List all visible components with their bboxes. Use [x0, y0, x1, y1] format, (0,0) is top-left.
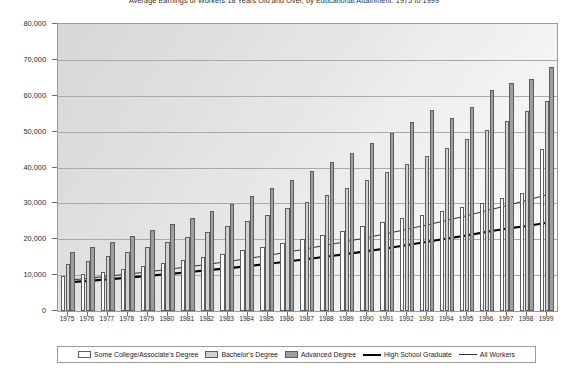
bar-some-college-associate-s-degree-1987: [300, 239, 304, 311]
bar-advanced-degree-1986: [290, 180, 294, 311]
legend-label: Some College/Associate's Degree: [94, 351, 198, 358]
bar-advanced-degree-1975: [70, 252, 74, 311]
legend-line-icon: [459, 354, 477, 355]
x-axis-tick: [67, 312, 68, 316]
bar-advanced-degree-1991: [390, 133, 394, 311]
x-axis-label: 1983: [219, 315, 234, 322]
bar-some-college-associate-s-degree-1990: [360, 226, 364, 311]
plot-inner: [58, 24, 557, 311]
bar-some-college-associate-s-degree-1985: [260, 247, 264, 311]
x-axis-label: 1990: [359, 315, 374, 322]
x-axis-tick: [486, 312, 487, 316]
bar-bachelor-s-degree-1979: [145, 247, 149, 311]
x-axis-tick: [326, 312, 327, 316]
x-axis-tick: [127, 312, 128, 316]
y-axis-tick: [52, 131, 57, 132]
legend-item[interactable]: Some College/Associate's Degree: [78, 351, 198, 358]
x-axis-label: 1999: [539, 315, 554, 322]
legend-item[interactable]: Bachelor's Degree: [205, 351, 277, 358]
bar-some-college-associate-s-degree-1997: [500, 198, 504, 311]
bar-some-college-associate-s-degree-1999: [540, 149, 544, 311]
y-axis-label: 50,000: [23, 126, 46, 135]
bar-bachelor-s-degree-1976: [86, 261, 90, 311]
bar-bachelor-s-degree-1990: [365, 180, 369, 311]
x-axis-tick: [426, 312, 427, 316]
bar-advanced-degree-1987: [310, 171, 314, 311]
x-axis-tick: [267, 312, 268, 316]
bar-bachelor-s-degree-1977: [106, 256, 110, 311]
y-axis: 010,00020,00030,00040,00050,00060,00070,…: [0, 23, 52, 312]
bar-advanced-degree-1979: [150, 230, 154, 311]
y-axis-tick: [52, 202, 57, 203]
bar-advanced-degree-1980: [170, 224, 174, 311]
bar-some-college-associate-s-degree-1975: [61, 276, 65, 311]
bar-some-college-associate-s-degree-1977: [101, 272, 105, 311]
bar-some-college-associate-s-degree-1992: [400, 218, 404, 311]
legend-swatch-icon: [78, 351, 91, 358]
x-axis-tick: [446, 312, 447, 316]
x-axis-tick: [546, 312, 547, 316]
bar-some-college-associate-s-degree-1976: [81, 274, 85, 311]
bar-bachelor-s-degree-1999: [545, 101, 549, 311]
plot-area: [57, 23, 558, 312]
bar-some-college-associate-s-degree-1978: [121, 269, 125, 311]
chart-container: Average Earnings of Workers 18 Years Old…: [0, 0, 568, 381]
legend-label: High School Graduate: [384, 351, 452, 358]
bar-bachelor-s-degree-1987: [305, 202, 309, 311]
bar-advanced-degree-1976: [90, 247, 94, 311]
bar-bachelor-s-degree-1998: [525, 111, 529, 311]
x-axis-label: 1984: [239, 315, 254, 322]
bar-some-college-associate-s-degree-1984: [240, 250, 244, 311]
x-axis-label: 1998: [519, 315, 534, 322]
y-axis-label: 20,000: [23, 234, 46, 243]
legend-item[interactable]: Advanced Degree: [285, 351, 356, 358]
bar-bachelor-s-degree-1978: [125, 252, 129, 311]
x-axis-tick: [386, 312, 387, 316]
legend-swatch-icon: [205, 351, 218, 358]
bar-some-college-associate-s-degree-1988: [320, 235, 324, 311]
bar-advanced-degree-1983: [230, 204, 234, 311]
bar-bachelor-s-degree-1997: [505, 121, 509, 311]
y-axis-label: 40,000: [23, 162, 46, 171]
x-axis: 1975197619771978197919801981198219831984…: [57, 315, 558, 329]
bar-bachelor-s-degree-1994: [445, 148, 449, 311]
x-axis-tick: [287, 312, 288, 316]
bar-advanced-degree-1977: [110, 242, 114, 311]
y-axis-tick: [52, 167, 57, 168]
bar-advanced-degree-1994: [450, 118, 454, 311]
bar-some-college-associate-s-degree-1980: [161, 263, 165, 311]
bar-bachelor-s-degree-1984: [245, 221, 249, 311]
x-axis-label: 1992: [399, 315, 414, 322]
legend-label: All Workers: [480, 351, 515, 358]
x-axis-label: 1991: [379, 315, 394, 322]
bar-some-college-associate-s-degree-1993: [420, 215, 424, 312]
x-axis-label: 1977: [100, 315, 115, 322]
legend-item[interactable]: High School Graduate: [363, 351, 452, 358]
y-axis-tick: [52, 238, 57, 239]
y-axis-tick: [52, 310, 57, 311]
bar-some-college-associate-s-degree-1983: [220, 254, 224, 311]
legend-label: Advanced Degree: [301, 351, 356, 358]
y-axis-tick: [52, 23, 57, 24]
x-axis-label: 1980: [159, 315, 174, 322]
legend-line-icon: [363, 354, 381, 356]
legend-item[interactable]: All Workers: [459, 351, 515, 358]
bar-some-college-associate-s-degree-1991: [380, 222, 384, 311]
bar-advanced-degree-1984: [250, 196, 254, 311]
x-axis-tick: [346, 312, 347, 316]
bar-some-college-associate-s-degree-1989: [340, 231, 344, 311]
x-axis-label: 1982: [199, 315, 214, 322]
bar-bachelor-s-degree-1986: [285, 208, 289, 311]
x-axis-label: 1993: [419, 315, 434, 322]
x-axis-label: 1978: [120, 315, 135, 322]
x-axis-tick: [227, 312, 228, 316]
y-axis-label: 70,000: [23, 54, 46, 63]
x-axis-label: 1988: [319, 315, 334, 322]
bar-bachelor-s-degree-1995: [465, 139, 469, 311]
x-axis-label: 1994: [439, 315, 454, 322]
bar-advanced-degree-1982: [210, 211, 214, 311]
bar-advanced-degree-1995: [470, 107, 474, 311]
bar-advanced-degree-1993: [430, 110, 434, 311]
x-axis-tick: [526, 312, 527, 316]
bar-bachelor-s-degree-1975: [66, 264, 70, 311]
